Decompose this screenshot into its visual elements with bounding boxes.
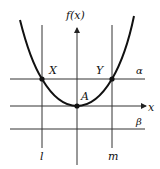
beta-label: β — [135, 116, 142, 127]
x-axis-label: x — [148, 101, 155, 114]
y-axis-label: f(x) — [65, 9, 85, 22]
point-A-label: A — [80, 90, 89, 103]
point-X-label: X — [48, 64, 58, 77]
point-Y-label: Y — [96, 64, 105, 77]
m-label: m — [108, 150, 118, 163]
alpha-label: α — [136, 65, 143, 76]
point-X — [39, 76, 44, 81]
diagram-canvas: f(x) x X Y A α β l m — [0, 0, 160, 169]
l-label: l — [40, 150, 44, 163]
point-Y — [109, 76, 114, 81]
point-A — [74, 103, 79, 108]
